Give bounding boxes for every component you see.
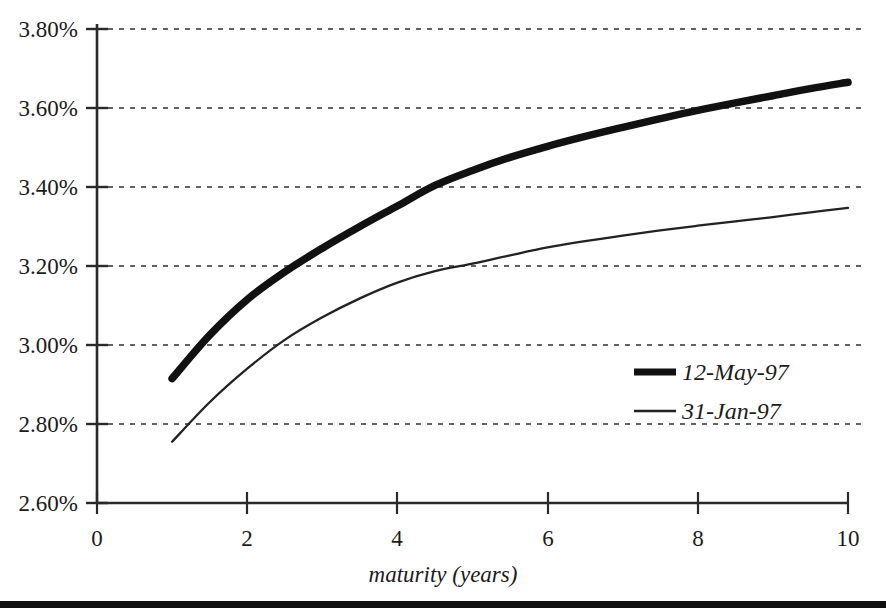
series-line-12-may-97 [172, 82, 848, 378]
bottom-rule [0, 601, 886, 608]
plot-canvas [0, 0, 886, 611]
data-series [172, 82, 848, 441]
yield-curve-figure: 3.80% 3.60% 3.40% 3.20% 3.00% 2.80% 2.60… [0, 0, 886, 611]
y-tick-label-3-00: 3.00% [0, 334, 78, 357]
y-tick-label-3-80: 3.80% [0, 18, 78, 41]
y-tick-label-2-80: 2.80% [0, 413, 78, 436]
legend-label-31-jan-97: 31-Jan-97 [682, 399, 781, 423]
legend-label-12-may-97: 12-May-97 [682, 360, 789, 384]
x-tick-label-8: 8 [692, 527, 704, 550]
x-tick-label-2: 2 [241, 527, 253, 550]
y-tick-label-3-20: 3.20% [0, 255, 78, 278]
y-tick-label-3-40: 3.40% [0, 176, 78, 199]
x-tick-label-4: 4 [391, 527, 403, 550]
y-tick-label-3-60: 3.60% [0, 97, 78, 120]
x-tick-label-0: 0 [91, 527, 103, 550]
legend-swatches [634, 372, 676, 411]
x-tick-label-10: 10 [837, 527, 860, 550]
x-tick-label-6: 6 [542, 527, 554, 550]
y-tick-label-2-60: 2.60% [0, 492, 78, 515]
x-axis-title: maturity (years) [369, 563, 518, 586]
